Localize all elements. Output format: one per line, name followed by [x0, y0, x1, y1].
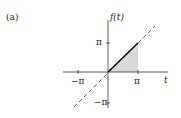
- y-axis-label: f(t): [110, 13, 124, 22]
- x-tick-neg-pi: −π: [71, 77, 84, 86]
- x-tick-pi: π: [134, 77, 140, 86]
- y-tick-pi: π: [96, 38, 102, 47]
- y-tick-neg-pi: −π: [94, 98, 107, 107]
- plot: [0, 0, 181, 118]
- x-axis-label: t: [164, 76, 168, 85]
